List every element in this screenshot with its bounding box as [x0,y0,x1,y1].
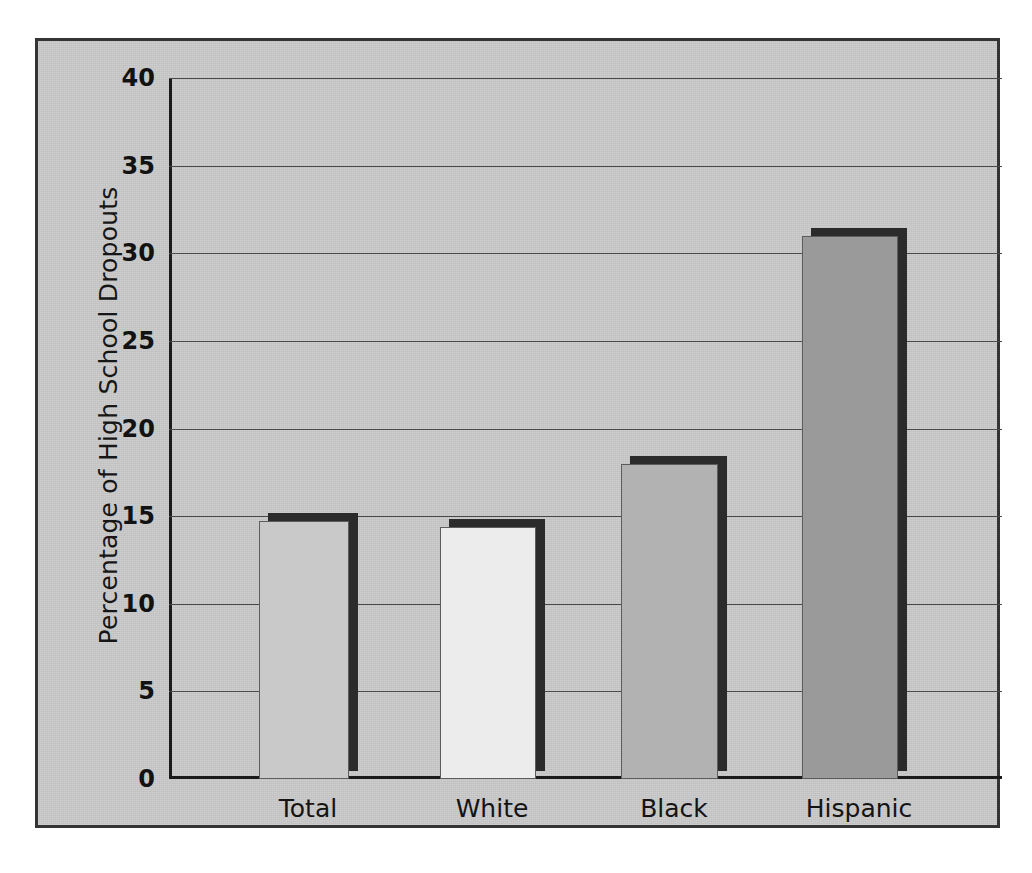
gridline-40 [169,78,1002,79]
bar-white[interactable] [440,527,536,779]
y-tick-40: 40 [95,64,155,92]
y-tick-25: 25 [95,327,155,355]
plot-area: Total White Black Hispanic [169,78,1002,779]
bar-total[interactable] [259,521,349,779]
y-tick-35: 35 [95,152,155,180]
bar-hispanic[interactable] [802,236,898,779]
bar-face-total [259,521,349,779]
y-tick-0: 0 [95,765,155,793]
x-tick-label-hispanic: Hispanic [806,794,913,823]
y-tick-20: 20 [95,415,155,443]
bar-face-black [621,464,718,779]
gridline-35 [169,166,1002,167]
x-tick-label-black: Black [640,794,708,823]
bar-face-white [440,527,536,779]
y-tick-15: 15 [95,502,155,530]
x-tick-label-total: Total [279,794,337,823]
chart-figure: Percentage of High School Dropouts 40 35… [35,38,1000,828]
y-tick-5: 5 [95,677,155,705]
y-axis-tick-labels: 40 35 30 25 20 15 10 5 0 [93,78,155,779]
bar-face-hispanic [802,236,898,779]
x-tick-label-white: White [456,794,529,823]
y-tick-10: 10 [95,590,155,618]
y-tick-30: 30 [95,239,155,267]
bar-black[interactable] [621,464,718,779]
